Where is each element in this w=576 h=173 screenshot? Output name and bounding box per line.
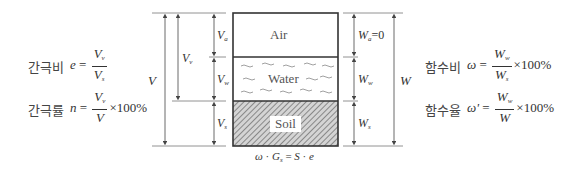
water-weight-label: Ww <box>358 72 373 87</box>
moisture-ratio-name: 함수율 <box>425 100 461 119</box>
porosity-name: 간극률 <box>28 100 64 119</box>
water-content-name: 함수비 <box>425 57 461 76</box>
porosity-formula: 간극률 n = VvV×100% <box>28 89 147 130</box>
total-volume-label: V <box>148 73 156 89</box>
void-ratio-formula: 간극비 e = VvVs <box>28 46 109 87</box>
air-volume-label: Va <box>217 28 228 43</box>
soil-weight-label: Ws <box>358 116 371 131</box>
water-label: Water <box>266 71 301 87</box>
air-weight-label: Wa=0 <box>358 28 384 43</box>
relation-equation: ω · Gs = S · e <box>255 150 314 164</box>
void-volume-label: Vv <box>182 51 192 66</box>
air-label: Air <box>270 27 287 43</box>
moisture-ratio-formula: 함수율 ω' = WwW×100% <box>425 89 554 130</box>
soil-volume-label: Vs <box>217 116 227 131</box>
void-ratio-name: 간극비 <box>28 57 64 76</box>
soil-label: Soil <box>270 116 301 132</box>
total-weight-label: W <box>400 73 411 89</box>
water-volume-label: Vw <box>217 72 229 87</box>
water-content-formula: 함수비 ω = WwWs×100% <box>425 46 551 87</box>
